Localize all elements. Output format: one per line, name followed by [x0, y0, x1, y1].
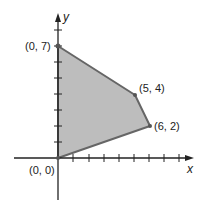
y-axis-arrow-icon: [55, 13, 61, 22]
x-axis-label: x: [186, 162, 194, 176]
vertex-label-6-2: (6, 2): [154, 120, 180, 132]
feasible-region-diagram: y x (0, 0) (0, 7) (5, 4) (6, 2): [0, 0, 203, 206]
x-axis-arrow-icon: [185, 155, 194, 161]
vertex-label-0-7: (0, 7): [25, 40, 51, 52]
y-axis-label: y: [62, 10, 70, 24]
vertex-label-5-4: (5, 4): [139, 82, 165, 94]
vertex-label-origin: (0, 0): [29, 164, 55, 176]
feasible-region: [58, 46, 150, 158]
